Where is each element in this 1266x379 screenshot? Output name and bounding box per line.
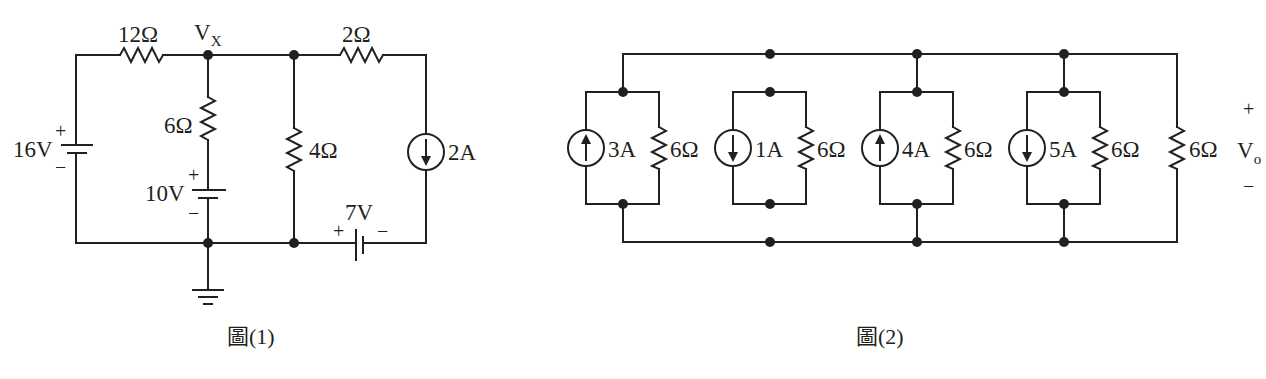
source-group-1: 3A 6Ω xyxy=(568,87,699,209)
label-2-ohm: 2Ω xyxy=(342,22,371,47)
figure-1-circuit: 12Ω VX 2Ω 6Ω 4Ω 2A 16V + − 10V + − 7V + … xyxy=(13,20,477,349)
label-source: 3A xyxy=(608,137,637,162)
wire-top-bus xyxy=(623,54,1177,127)
wire xyxy=(76,55,120,145)
label-load-6-ohm: 6Ω xyxy=(1189,137,1218,162)
wire-bottom-bus xyxy=(623,169,1177,242)
label-vo: Vo xyxy=(1237,138,1261,167)
label-4-ohm: 4Ω xyxy=(309,138,338,163)
node xyxy=(912,87,922,97)
source-group-4: 5A 6Ω xyxy=(1009,49,1140,247)
node xyxy=(1059,87,1069,97)
arrow-head xyxy=(581,134,591,144)
plus-sign-vo: + xyxy=(1243,98,1254,120)
label-resistor: 6Ω xyxy=(670,137,699,162)
node-vx xyxy=(203,50,213,60)
plus-sign-10V: + xyxy=(188,164,199,186)
node xyxy=(765,237,775,247)
label-source: 5A xyxy=(1049,137,1078,162)
node xyxy=(912,199,922,209)
source-group-2: 1A 6Ω xyxy=(623,49,846,247)
label-resistor: 6Ω xyxy=(817,137,846,162)
label-vx: VX xyxy=(194,20,222,49)
resistor-6-ohm xyxy=(201,97,215,140)
node xyxy=(1059,49,1069,59)
figure-2-caption: 圖(2) xyxy=(856,324,904,349)
label-2A: 2A xyxy=(448,140,477,165)
label-12-ohm: 12Ω xyxy=(118,22,158,47)
figure-2-circuit: 6Ω + Vo − 3A 6Ω 1A xyxy=(568,49,1261,349)
plus-sign-7V: + xyxy=(333,220,344,242)
source-group-3: 4A 6Ω xyxy=(862,49,993,247)
arrow-head xyxy=(1022,152,1032,162)
figure-1-caption: 圖(1) xyxy=(227,324,275,349)
resistor-6-ohm xyxy=(1093,127,1107,169)
node xyxy=(1059,237,1069,247)
arrow-head xyxy=(875,134,885,144)
minus-sign-16V: − xyxy=(55,156,66,178)
node xyxy=(765,49,775,59)
minus-sign-vo: − xyxy=(1243,175,1254,197)
minus-sign-10V: − xyxy=(188,202,199,224)
plus-sign-16V: + xyxy=(55,120,66,142)
resistor-6-ohm xyxy=(652,127,666,169)
resistor-2-ohm xyxy=(340,48,383,62)
label-10V: 10V xyxy=(145,181,185,206)
arrow-head xyxy=(728,152,738,162)
node xyxy=(765,87,775,97)
label-resistor: 6Ω xyxy=(1111,137,1140,162)
label-6-ohm: 6Ω xyxy=(164,113,193,138)
arrow-head xyxy=(421,156,431,166)
minus-sign-7V: − xyxy=(377,220,388,242)
resistor-6-ohm xyxy=(946,127,960,169)
label-source: 1A xyxy=(755,137,784,162)
wire xyxy=(383,55,426,134)
resistor-4-ohm xyxy=(287,128,301,171)
node xyxy=(912,237,922,247)
node xyxy=(289,238,299,248)
label-7V: 7V xyxy=(345,200,374,225)
node xyxy=(912,49,922,59)
node xyxy=(1059,199,1069,209)
label-16V: 16V xyxy=(13,137,53,162)
resistor-6-ohm xyxy=(799,127,813,169)
label-source: 4A xyxy=(902,137,931,162)
label-resistor: 6Ω xyxy=(964,137,993,162)
resistor-12-ohm xyxy=(120,48,163,62)
node-ground xyxy=(203,238,213,248)
node xyxy=(765,199,775,209)
ground-icon xyxy=(193,290,223,304)
resistor-load-6-ohm xyxy=(1170,127,1184,169)
node xyxy=(289,50,299,60)
